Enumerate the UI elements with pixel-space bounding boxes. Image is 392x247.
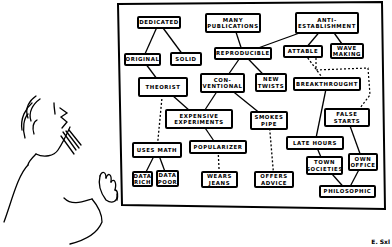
scientist-figure	[4, 96, 118, 244]
artist-signature: E. Sxl	[371, 238, 390, 245]
node-anti-establishment: ANTI- ESTABLISHMENT	[295, 12, 359, 34]
node-wave-making: WAVE MAKING	[330, 43, 364, 59]
node-smokes-pipe: SMOKES PIPE	[250, 111, 288, 130]
node-solid: SOLID	[170, 52, 202, 66]
node-conventional: CON- VENTIONAL	[200, 73, 245, 93]
node-data-rich: DATA RICH	[132, 171, 153, 187]
node-attable: ATTABLE	[283, 45, 323, 58]
node-offers-advice: OFFERS ADVICE	[254, 171, 294, 188]
node-philosophic: PHILOSOPHIC	[319, 185, 376, 198]
node-dedicated: DEDICATED	[137, 16, 181, 29]
node-original: ORIGINAL	[124, 53, 161, 66]
node-breakthrough: BREAKTHROUGHT	[293, 77, 361, 91]
node-expensive-experiments: EXPENSIVE EXPERIMENTS	[165, 109, 233, 129]
node-many-publications: MANY PUBLICATIONS	[205, 13, 261, 33]
node-new-twists: NEW TWISTS	[255, 73, 287, 92]
node-own-office: OWN OFFICE	[348, 153, 378, 171]
node-late-hours: LATE HOURS	[286, 136, 344, 150]
node-data-poor: DATA POOR	[156, 170, 179, 187]
node-town-societies: TOWN SOCIETIES	[306, 156, 343, 175]
node-popularizer: POPULARIZER	[189, 140, 247, 154]
node-uses-math: USES MATH	[132, 142, 182, 158]
node-false-starts: FALSE STARTS	[324, 108, 370, 127]
node-wears-jeans: WEARS JEANS	[201, 171, 238, 188]
node-reproducible: REPRODUCIBLE	[214, 47, 272, 60]
node-theorist: THEORIST	[138, 77, 188, 97]
